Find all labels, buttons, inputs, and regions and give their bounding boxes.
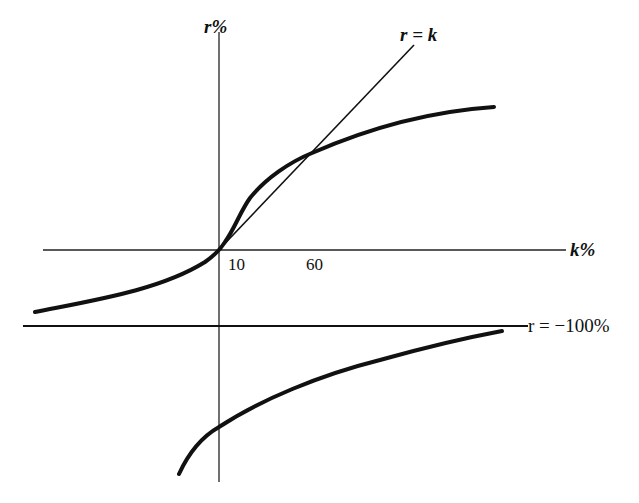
diagram-canvas [0, 0, 639, 503]
y-axis-label: r% [204, 17, 227, 36]
identity-line-label: r = k [400, 25, 437, 44]
x-axis-label: k% [570, 240, 595, 259]
tick-10-label: 10 [228, 256, 245, 273]
lower-curve [179, 331, 502, 474]
tick-60-label: 60 [306, 256, 323, 273]
upper-curve [35, 107, 494, 312]
asymptote-label: r = −100% [528, 316, 610, 335]
